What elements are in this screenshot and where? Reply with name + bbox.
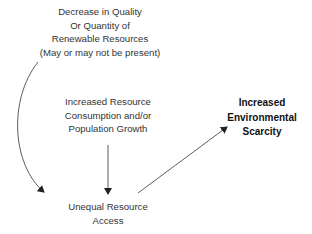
node-line: Population Growth	[48, 122, 168, 136]
node-line: Renewable Resources	[0, 32, 200, 46]
edge-decrease-to-unequal	[18, 62, 44, 192]
node-line: (May or may not be present)	[0, 46, 200, 60]
node-line: Scarcity	[212, 125, 312, 140]
node-unequal-resource-access: Unequal Resource Access	[48, 200, 168, 227]
node-line: Environmental	[212, 111, 312, 126]
node-line: Increased Resource	[48, 95, 168, 109]
node-decrease-renewable-resources: Decrease in Quality Or Quantity of Renew…	[0, 5, 200, 59]
node-line: Or Quantity of	[0, 19, 200, 33]
node-line: Consumption and/or	[48, 109, 168, 123]
node-line: Increased	[212, 96, 312, 111]
node-line: Unequal Resource	[48, 200, 168, 214]
node-increased-environmental-scarcity: Increased Environmental Scarcity	[212, 96, 312, 140]
node-line: Decrease in Quality	[0, 5, 200, 19]
node-increased-consumption: Increased Resource Consumption and/or Po…	[48, 95, 168, 136]
node-line: Access	[48, 214, 168, 228]
